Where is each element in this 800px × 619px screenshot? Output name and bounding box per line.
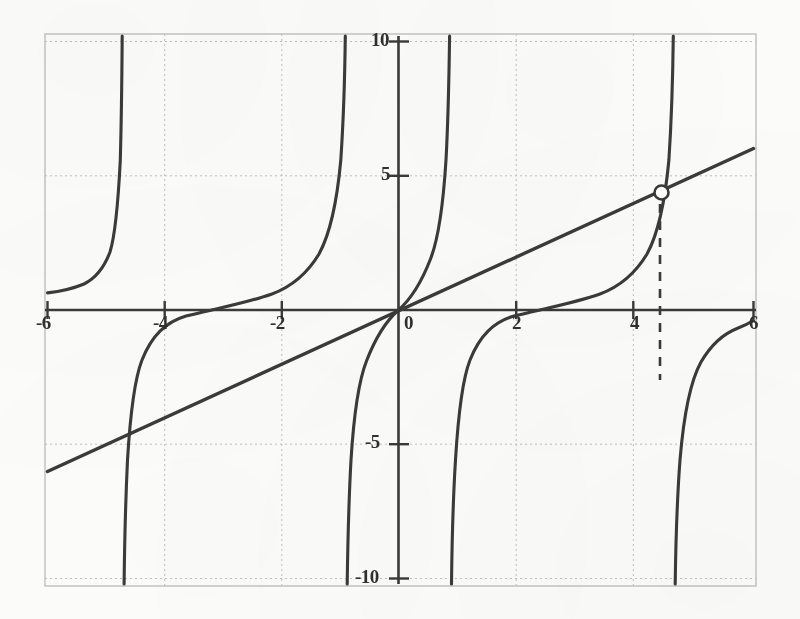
y-tick-label-5: 5: [381, 163, 390, 185]
y-tick-label-minus5: -5: [365, 431, 380, 453]
graph-figure: -6 -4 -2 0 2 4 6 10 5 -5 -10: [0, 0, 800, 619]
x-tick-label-minus4: -4: [153, 312, 168, 334]
x-tick-label-2: 2: [512, 312, 521, 334]
x-tick-label-6: 6: [749, 312, 758, 334]
x-tick-label-0: 0: [404, 312, 413, 334]
x-tick-label-4: 4: [630, 312, 639, 334]
x-tick-label-minus2: -2: [270, 312, 285, 334]
y-tick-label-minus10: -10: [355, 566, 379, 588]
intersection-marker: [655, 186, 669, 200]
x-tick-label-minus6: -6: [36, 312, 51, 334]
tan-branch-1: [48, 36, 123, 293]
tan-branch-5: [675, 321, 753, 585]
y-tick-label-10: 10: [371, 29, 389, 51]
plot-canvas: [0, 0, 800, 619]
